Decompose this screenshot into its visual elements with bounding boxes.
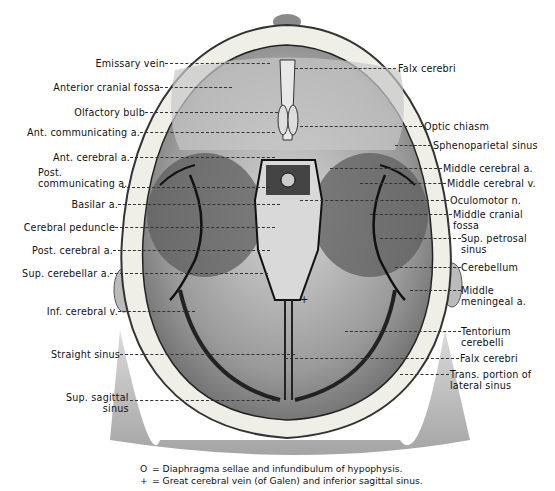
label-post-communicating-a: Post. communicating a. [38,167,122,189]
leader-line [160,87,232,88]
cranial-base-diagram: + Emissary vein Anterior cranial fossa O… [0,0,555,491]
leader-line [140,132,275,133]
leader-line [295,68,396,69]
plus-symbol-icon: + [140,475,152,487]
leader-line [115,227,275,228]
leader-line [360,183,446,184]
leader-line [118,204,280,205]
label-sup-cerebellar-a: Sup. cerebellar a. [22,268,110,279]
label-middle-cranial-fossa: Middle cranial fossa [453,209,523,231]
label-tentorium-cerebelli: Tentorium cerebelli [461,326,511,348]
leader-line [120,354,295,355]
leader-line [130,400,280,401]
label-inf-cerebral-v: Inf. cerebral v. [47,306,118,317]
figure-legend: O= Diaphragma sellae and infundibulum of… [140,463,423,487]
leader-line [395,267,461,268]
leader-line [330,168,442,169]
label-falx-cerebri-bottom: Falx cerebri [460,353,518,364]
label-sphenoparietal-sinus: Sphenoparietal sinus [433,140,538,151]
leader-line [122,187,270,188]
leader-line [165,63,270,64]
leader-line [410,290,461,291]
label-middle-cerebral-a: Middle cerebral a. [443,163,533,174]
legend-text: = Diaphragma sellae and infundibulum of … [152,463,402,474]
label-ant-communicating-a: Ant. communicating a. [27,127,140,138]
circle-symbol-icon: O [140,463,152,475]
label-middle-meningeal-a: Middle meningeal a. [461,285,526,307]
leader-line [300,200,449,201]
label-middle-cerebral-v: Middle cerebral v. [447,178,536,189]
label-falx-cerebri-top: Falx cerebri [398,63,456,74]
legend-item-great-cerebral-vein: += Great cerebral vein (of Galen) and in… [140,475,423,487]
label-post-cerebral-a: Post. cerebral a. [32,245,113,256]
label-cerebral-peduncle: Cerebral peduncle [24,222,115,233]
leader-line [395,145,431,146]
leader-line [113,250,270,251]
label-optic-chiasm: Optic chiasm [424,121,489,132]
leader-line [370,214,452,215]
leader-line [130,157,275,158]
label-sup-petrosal-sinus: Sup. petrosal sinus [461,233,527,255]
leader-line [345,331,461,332]
svg-text:+: + [300,294,308,305]
leader-line [118,311,195,312]
label-anterior-cranial-fossa: Anterior cranial fossa [53,82,160,93]
leader-line [300,126,422,127]
label-cerebellum: Cerebellum [461,262,518,273]
leader-line [110,273,268,274]
leader-line [145,112,278,113]
label-emissary-vein: Emissary vein [95,58,165,69]
legend-item-diaphragma: O= Diaphragma sellae and infundibulum of… [140,463,423,475]
leader-line [400,374,449,375]
legend-text: = Great cerebral vein (of Galen) and inf… [152,475,423,486]
label-straight-sinus: Straight sinus [51,349,120,360]
leader-line [380,238,461,239]
leader-line [285,358,459,359]
label-basilar-a: Basilar a. [71,199,118,210]
label-oculomotor-n: Oculomotor n. [450,195,521,206]
label-ant-cerebral-a: Ant. cerebral a. [53,152,130,163]
label-olfactory-bulb: Olfactory bulb [74,107,145,118]
label-trans-portion-lateral-sinus: Trans. portion of lateral sinus [450,369,531,391]
label-sup-sagittal-sinus: Sup. sagittal sinus [66,392,129,414]
